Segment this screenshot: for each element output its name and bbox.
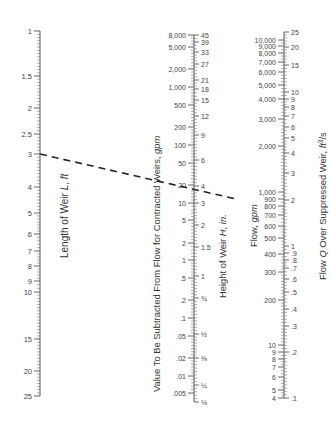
- flow-gpm-tick-label: 9: [272, 349, 276, 356]
- height-tick-label: ¼: [201, 382, 207, 389]
- height-tick-label: 1: [201, 273, 205, 280]
- flow-gpm-tick-label: 500: [264, 235, 276, 242]
- height-tick-label: 45: [201, 32, 209, 39]
- flow-gpm-tick-label: 900: [264, 196, 276, 203]
- flow-cfs-tick-label: .6: [291, 276, 297, 283]
- length-tick-label: 8: [28, 262, 32, 271]
- flow-gpm-tick-label: 10: [268, 342, 276, 349]
- subtract-tick-label: 500: [174, 102, 186, 109]
- flow-cfs-tick-label: 7: [291, 113, 295, 120]
- flow-gpm-tick-label: 8: [272, 356, 276, 363]
- flow-cfs-tick-label: 20: [291, 44, 299, 51]
- flow-cfs-tick-label: 1: [291, 243, 295, 250]
- height-tick-label: 1.5: [201, 244, 211, 251]
- height-tick-label: ⅛: [201, 399, 207, 406]
- length-tick-label: 25: [24, 392, 32, 401]
- flow-gpm-tick-label: 3,000: [258, 116, 276, 123]
- subtract-tick-label: 10: [178, 200, 186, 207]
- flow-cfs-tick-label: 6: [291, 124, 295, 131]
- flow-cfs-tick-label: .3: [291, 323, 297, 330]
- flow-gpm-tick-label: 4: [272, 395, 276, 402]
- length-tick-label: 2.5: [22, 130, 32, 139]
- flow-cfs-tick-label: .1: [291, 395, 297, 402]
- flow-cfs-tick-label: 5: [291, 135, 295, 142]
- subtract-tick-label: 100: [174, 142, 186, 149]
- height-tick-label: 4: [201, 183, 205, 190]
- flow-gpm-tick-label: 300: [264, 269, 276, 276]
- length-tick-label: 10: [24, 288, 32, 297]
- subtract-tick-label: .005: [172, 390, 186, 397]
- height-tick-label: 12: [201, 113, 209, 120]
- flow-cfs-tick-label: 8: [291, 104, 295, 111]
- height-tick-label: 6: [201, 157, 205, 164]
- height-axis-title: Height of Weir H, in.: [217, 214, 228, 298]
- flow-cfs-tick-label: 2: [291, 197, 295, 204]
- flow-gpm-tick-label: 200: [264, 297, 276, 304]
- length-tick-label: 7: [28, 247, 32, 256]
- subtract-tick-label: 2: [182, 240, 186, 247]
- subtract-tick-label: .01: [176, 373, 186, 380]
- flow-cfs-tick-label: .2: [291, 349, 297, 356]
- flow-cfs-axis-title: Flow Q Over Suppressed Weir, ft3/s: [317, 132, 329, 280]
- height-tick-label: 33: [201, 49, 209, 56]
- flow-cfs-tick-label: .5: [291, 289, 297, 296]
- flow-gpm-axis-title: Flow, gpm: [248, 204, 259, 247]
- flow-cfs-tick-label: .4: [291, 306, 297, 313]
- height-tick-label: ½: [201, 331, 207, 338]
- subtract-tick-label: 50: [178, 160, 186, 167]
- flow-cfs-tick-label: .9: [291, 250, 297, 257]
- flow-cfs-tick-label: 9: [291, 96, 295, 103]
- subtract-tick-label: .2: [180, 297, 186, 304]
- subtract-axis-title: Value To Be Subtracted From Flow for Con…: [151, 135, 162, 392]
- flow-gpm-tick-label: 8,000: [258, 50, 276, 57]
- flow-cfs-tick-label: .8: [291, 257, 297, 264]
- flow-gpm-tick-label: 5,000: [258, 82, 276, 89]
- flow-gpm-tick-label: 5: [272, 387, 276, 394]
- flow-cfs-tick-label: 15: [291, 62, 299, 69]
- subtract-tick-label: .05: [176, 333, 186, 340]
- subtract-tick-label: .1: [180, 315, 186, 322]
- subtract-tick-label: .02: [176, 355, 186, 362]
- height-tick-label: 18: [201, 86, 209, 93]
- flow-cfs-tick-label: .7: [291, 265, 297, 272]
- length-tick-label: 4: [28, 183, 32, 192]
- height-tick-label: 9: [201, 132, 205, 139]
- length-tick-label: 2: [28, 104, 32, 113]
- length-tick-label: 1.5: [22, 72, 32, 81]
- height-tick-label: 21: [201, 77, 209, 84]
- flow-gpm-tick-label: 800: [264, 203, 276, 210]
- flow-gpm-tick-label: 7,000: [258, 59, 276, 66]
- flow-gpm-tick-label: 6,000: [258, 69, 276, 76]
- length-axis-title: Length of Weir L, ft: [59, 172, 70, 258]
- subtract-tick-label: 8,000: [168, 32, 186, 39]
- flow-cfs-tick-label: 3: [291, 170, 295, 177]
- nomograph: 11.522.53456789101520258,0005,0002,0001,…: [0, 0, 331, 426]
- flow-gpm-tick-label: 600: [264, 223, 276, 230]
- subtract-tick-label: 5: [182, 217, 186, 224]
- flow-gpm-tick-label: 700: [264, 212, 276, 219]
- flow-gpm-tick-label: 400: [264, 251, 276, 258]
- length-tick-label: 3: [28, 150, 32, 159]
- length-tick-label: 9: [28, 277, 32, 286]
- height-tick-label: 2: [201, 222, 205, 229]
- length-tick-label: 6: [28, 230, 32, 239]
- height-tick-label: 15: [201, 97, 209, 104]
- flow-cfs-tick-label: 4: [291, 150, 295, 157]
- flow-gpm-tick-label: 4,000: [258, 96, 276, 103]
- flow-gpm-tick-label: 9,000: [258, 43, 276, 50]
- flow-gpm-tick-label: 2,000: [258, 143, 276, 150]
- subtract-tick-label: 200: [174, 124, 186, 131]
- length-tick-label: 15: [24, 335, 32, 344]
- height-tick-label: ⅜: [201, 355, 207, 362]
- subtract-tick-label: 2,000: [168, 66, 186, 73]
- length-tick-label: 20: [24, 367, 32, 376]
- flow-gpm-tick-label: 7: [272, 364, 276, 371]
- height-tick-label: 39: [201, 39, 209, 46]
- flow-cfs-tick-label: 10: [291, 89, 299, 96]
- subtract-tick-label: 1,000: [168, 84, 186, 91]
- flow-gpm-tick-label: 6: [272, 374, 276, 381]
- flow-gpm-tick-label: 1,000: [258, 189, 276, 196]
- height-tick-label: 27: [201, 61, 209, 68]
- subtract-tick-label: 1: [182, 257, 186, 264]
- height-tick-label: ¾: [201, 295, 207, 302]
